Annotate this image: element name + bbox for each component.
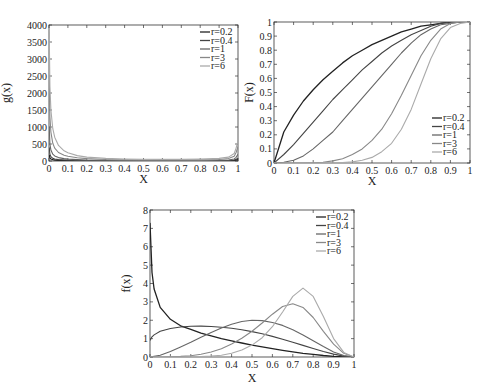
series-line-r-3	[274, 22, 470, 163]
x-tick-label: 0.7	[405, 165, 418, 176]
chart-g: 00.10.20.30.40.50.60.70.80.9105001000150…	[0, 20, 241, 187]
y-tick-label: 0.6	[260, 73, 273, 84]
y-tick-label: 0	[143, 352, 148, 363]
figure-canvas: 00.10.20.30.40.50.60.70.80.9105001000150…	[0, 0, 487, 389]
y-tick-label: 4000	[27, 20, 47, 31]
y-tick-label: 3500	[27, 37, 47, 48]
x-tick-label: 0.5	[246, 359, 259, 370]
x-tick-label: 1	[468, 165, 473, 176]
x-tick-label: 1	[352, 359, 357, 370]
series-line-r-3	[49, 76, 238, 160]
y-tick-label: 8	[143, 205, 148, 216]
y-tick-label: 0.2	[260, 129, 273, 140]
x-tick-label: 0.9	[213, 163, 226, 174]
x-tick-label: 0.4	[346, 165, 359, 176]
chart-f: 00.10.20.30.40.50.60.70.80.91012345678Xf…	[119, 205, 357, 386]
x-tick-label: 0.4	[118, 163, 131, 174]
y-tick-label: 1	[143, 333, 148, 344]
x-tick-label: 0	[47, 163, 52, 174]
y-tick-label: 6	[143, 241, 148, 252]
legend-label: r=6	[327, 245, 341, 256]
y-axis-label: F(x)	[242, 82, 256, 103]
x-axis-label: X	[248, 371, 257, 385]
x-tick-label: 0	[272, 165, 277, 176]
series-line-r-6	[49, 32, 238, 160]
x-tick-label: 0.9	[327, 359, 340, 370]
x-tick-label: 0.1	[62, 163, 75, 174]
y-tick-label: 5	[143, 260, 148, 271]
x-tick-label: 0.2	[81, 163, 94, 174]
legend-label: r=6	[211, 60, 225, 71]
y-tick-label: 3000	[27, 54, 47, 65]
x-tick-label: 0.6	[156, 163, 169, 174]
y-tick-label: 0.5	[260, 87, 273, 98]
y-tick-label: 500	[32, 139, 47, 150]
chart-F: 00.10.20.30.40.50.60.70.80.9100.10.20.30…	[242, 17, 473, 189]
plot-frame	[49, 25, 238, 161]
y-tick-label: 4	[143, 278, 148, 289]
y-tick-label: 0.4	[260, 101, 273, 112]
y-tick-label: 1000	[27, 122, 47, 133]
y-tick-label: 3	[143, 296, 148, 307]
series-line-r-0-4	[274, 22, 470, 163]
series-line-r-6	[274, 22, 470, 163]
series-line-r-1	[274, 22, 470, 163]
y-axis-label: f(x)	[119, 275, 133, 293]
x-axis-label: X	[368, 174, 377, 188]
series-line-r-3	[150, 304, 354, 357]
y-tick-label: 1500	[27, 105, 47, 116]
x-tick-label: 0	[148, 359, 153, 370]
legend-label: r=6	[443, 146, 457, 157]
x-tick-label: 0.3	[327, 165, 340, 176]
plot-frame	[274, 22, 470, 163]
y-tick-label: 2500	[27, 71, 47, 82]
y-tick-label: 0.7	[260, 59, 273, 70]
x-tick-label: 0.8	[194, 163, 207, 174]
x-tick-label: 0.1	[287, 165, 300, 176]
y-tick-label: 0	[42, 156, 47, 167]
y-tick-label: 2000	[27, 88, 47, 99]
x-tick-label: 0.2	[185, 359, 198, 370]
x-tick-label: 0.7	[287, 359, 300, 370]
series-line-r-0-2	[274, 22, 470, 163]
y-tick-label: 0.3	[260, 115, 273, 126]
x-tick-label: 0.3	[205, 359, 218, 370]
x-tick-label: 0.9	[444, 165, 457, 176]
x-tick-label: 0.2	[307, 165, 320, 176]
x-tick-label: 0.8	[425, 165, 438, 176]
x-tick-label: 0.6	[266, 359, 279, 370]
plot-frame	[150, 210, 354, 357]
x-tick-label: 0.6	[385, 165, 398, 176]
x-tick-label: 0.8	[307, 359, 320, 370]
x-tick-label: 0.3	[99, 163, 112, 174]
x-axis-label: X	[139, 172, 148, 186]
x-tick-label: 1	[236, 163, 241, 174]
y-tick-label: 7	[143, 223, 148, 234]
y-tick-label: 1	[267, 17, 272, 28]
x-tick-label: 0.1	[164, 359, 177, 370]
y-tick-label: 0.8	[260, 45, 273, 56]
y-axis-label: g(x)	[0, 83, 13, 103]
x-tick-label: 0.7	[175, 163, 188, 174]
y-tick-label: 0.1	[260, 143, 273, 154]
x-tick-label: 0.4	[225, 359, 238, 370]
y-tick-label: 0	[267, 158, 272, 169]
y-tick-label: 2	[143, 315, 148, 326]
y-tick-label: 0.9	[260, 31, 273, 42]
